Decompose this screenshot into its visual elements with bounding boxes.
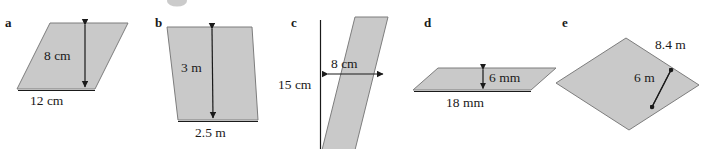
height-label-e: 8.4 m bbox=[655, 38, 686, 52]
figure-letter-b: b bbox=[155, 16, 162, 29]
side-label-c: 15 cm bbox=[278, 78, 311, 92]
parallelogram-c bbox=[322, 17, 388, 149]
figure-sheet: a b c d e 8 cm 12 cm 3 m 2.5 m 8 cm 15 c… bbox=[0, 0, 709, 149]
figure-letter-e: e bbox=[562, 16, 568, 29]
figure-letter-a: a bbox=[5, 16, 12, 29]
base-label-c: 8 cm bbox=[331, 57, 358, 71]
base-label-a: 12 cm bbox=[30, 94, 63, 108]
height-label-a: 8 cm bbox=[44, 49, 71, 63]
base-label-b: 2.5 m bbox=[195, 126, 226, 140]
decorative-ellipse bbox=[167, 0, 187, 7]
figure-letter-d: d bbox=[424, 16, 431, 29]
base-label-e: 6 m bbox=[634, 71, 655, 85]
shapes-svg-layer bbox=[0, 0, 709, 149]
parallelogram-d bbox=[413, 68, 556, 90]
parallelogram-a bbox=[17, 23, 128, 89]
base-label-d: 18 mm bbox=[446, 96, 484, 110]
height-label-d: 6 mm bbox=[489, 71, 520, 85]
height-label-b: 3 m bbox=[181, 61, 202, 75]
figure-letter-c: c bbox=[291, 16, 297, 29]
